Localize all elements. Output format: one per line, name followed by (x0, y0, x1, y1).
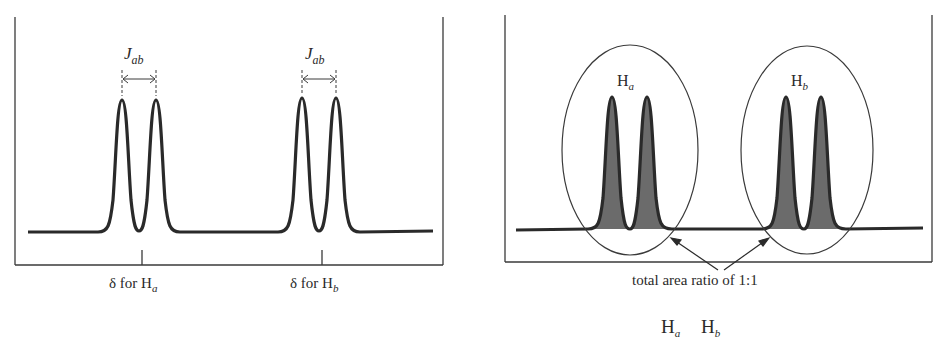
annotation-arrows (671, 238, 769, 270)
delta-label-sub: a (152, 282, 158, 294)
coupling-label-main: J (124, 44, 132, 63)
group-label-ha: Ha (617, 72, 634, 92)
delta-label-hb: δ for Hb (290, 275, 338, 294)
right-spectrum-trace (516, 97, 923, 230)
coupling-label-main: J (305, 44, 313, 63)
group-label-sub: b (803, 80, 809, 92)
coupling-label-sub: ab (313, 53, 325, 67)
coupling-label-a: Jab (124, 44, 144, 68)
right-panel-frame (505, 15, 932, 262)
delta-label-text: δ for H (109, 275, 152, 291)
area-ratio-annotation: total area ratio of 1:1 (632, 272, 758, 289)
coupling-label-sub: ab (132, 53, 144, 67)
bottom-label-main: H (701, 316, 715, 337)
bottom-label-sub: b (715, 327, 721, 339)
delta-ticks (142, 250, 322, 265)
delta-label-sub: b (333, 282, 339, 294)
group-label-hb: Hb (791, 72, 808, 92)
left-spectrum-trace (28, 98, 433, 232)
coupling-indicator-b (302, 70, 336, 94)
coupling-label-b: Jab (305, 44, 325, 68)
group-label-sub: a (629, 80, 635, 92)
delta-label-ha: δ for Ha (109, 275, 157, 294)
group-label-main: H (791, 72, 803, 89)
bottom-label-ha: Ha (661, 316, 680, 339)
delta-label-text: δ for H (290, 275, 333, 291)
group-label-main: H (617, 72, 629, 89)
bottom-label-sub: a (675, 327, 681, 339)
bottom-label-hb: Hb (701, 316, 720, 339)
bottom-label-main: H (661, 316, 675, 337)
left-panel-frame (15, 17, 443, 265)
coupling-indicator-a (122, 70, 156, 96)
